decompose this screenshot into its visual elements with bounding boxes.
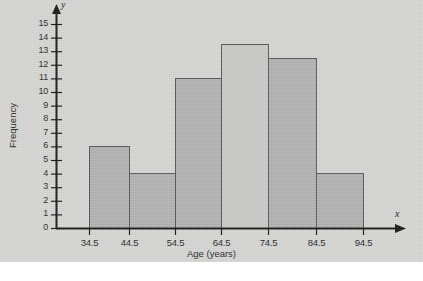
ytick-label-13: 13	[26, 45, 48, 55]
axes-svg	[0, 0, 423, 262]
ytick-label-7: 7	[26, 127, 48, 137]
y-axis-letter: y	[61, 0, 65, 10]
ytick-label-2: 2	[26, 195, 48, 205]
ytick-label-12: 12	[26, 59, 48, 69]
ytick-label-10: 10	[26, 86, 48, 96]
x-axis-letter: x	[395, 208, 399, 219]
ytick-label-4: 4	[26, 168, 48, 178]
y-axis-title: Frequency	[7, 81, 18, 171]
xtick-label-94.5: 94.5	[344, 237, 384, 248]
x-axis-title: Age (years)	[0, 248, 423, 259]
ytick-label-6: 6	[26, 140, 48, 150]
xtick-label-44.5: 44.5	[110, 237, 150, 248]
ytick-label-8: 8	[26, 113, 48, 123]
ytick-label-0: 0	[26, 222, 48, 232]
xtick-label-34.5: 34.5	[70, 237, 110, 248]
ytick-label-15: 15	[26, 18, 48, 28]
xtick-label-54.5: 54.5	[156, 237, 196, 248]
ytick-label-14: 14	[26, 32, 48, 42]
xtick-label-64.5: 64.5	[202, 237, 242, 248]
xtick-label-74.5: 74.5	[249, 237, 289, 248]
ytick-label-9: 9	[26, 100, 48, 110]
chart-figure: 0 1 2 3 4 5 6 7 8 9 10 11 12 13 14 15 34…	[0, 0, 423, 262]
xtick-label-84.5: 84.5	[297, 237, 337, 248]
ytick-label-1: 1	[26, 208, 48, 218]
ytick-label-3: 3	[26, 181, 48, 191]
ytick-label-5: 5	[26, 154, 48, 164]
histogram-plot: 0 1 2 3 4 5 6 7 8 9 10 11 12 13 14 15 34…	[0, 0, 423, 262]
ytick-label-11: 11	[26, 72, 48, 82]
